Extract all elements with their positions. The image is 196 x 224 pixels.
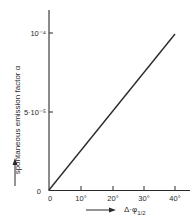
chart: 0 5·10⁻⁵ 10⁻⁴ 0 10° 20° 30° 40° spontane… <box>0 0 196 224</box>
x-axis-label-subscript: 1/2 <box>137 210 146 216</box>
x-tick-label-40: 40° <box>169 194 180 203</box>
x-tick-label-30: 30° <box>138 194 149 203</box>
x-tick-label-20: 20° <box>107 194 118 203</box>
x-tick-label-0: 0 <box>48 194 52 203</box>
y-tick-label-top: 10⁻⁴ <box>30 29 46 38</box>
x-axis-label: Δ·φ1/2 <box>124 205 146 216</box>
x-tick-label-10: 10° <box>75 194 86 203</box>
data-series-line <box>49 34 175 190</box>
x-axis-label-main: Δ·φ <box>124 205 137 214</box>
y-axis-label: spontaneous emission factor α <box>13 65 22 174</box>
y-tick-label-mid: 5·10⁻⁵ <box>24 108 46 117</box>
y-tick-label-0: 0 <box>37 187 41 196</box>
x-axis-arrow-icon <box>109 208 116 213</box>
